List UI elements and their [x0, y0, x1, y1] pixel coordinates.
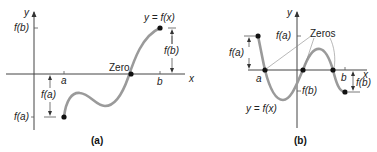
figure: y a b f(b) f(a) Zero y = f(x) f(b) f(a) [0, 0, 377, 152]
panel-b-point-fb [342, 89, 347, 94]
panel-b-fb-axis-label: f(b) [302, 85, 317, 96]
panel-b-tick-b-label: b [341, 72, 347, 83]
panel-a-fa-arrowhead-down-icon [48, 111, 52, 116]
panel-a-point-fa [61, 114, 66, 119]
panel-b-curve-label: y = f(x) [245, 103, 277, 114]
panel-b-zero-3 [330, 67, 335, 72]
panel-a-fb-arrowhead-up-icon [170, 29, 174, 34]
panel-a-y-arrow-icon [32, 11, 37, 17]
panel-a-fb-axis-label: f(b) [14, 22, 29, 33]
panel-b: y x x a b f(a) f(b) Zeros y = f(x) [188, 7, 371, 146]
panel-a-point-fb [157, 25, 162, 30]
panel-b-zeros-label: Zeros [310, 28, 336, 39]
panel-b-fa-axis-label: f(a) [276, 30, 291, 41]
panel-b-fa-arrowhead-down-icon [247, 64, 251, 69]
panel-a-curve-label: y = f(x) [143, 12, 175, 23]
panel-a-fa-dim-label: f(a) [41, 89, 56, 100]
panel-a-fa-arrowhead-up-icon [48, 75, 52, 80]
panel-a-fb-arrowhead-down-icon [170, 68, 174, 73]
panel-a-caption: (a) [91, 135, 103, 146]
panel-a-y-label: y [23, 7, 30, 18]
panel-b-fb-dim-label: f(b) [356, 77, 371, 88]
panel-b-tick-a-label: a [256, 73, 262, 84]
panel-b-y-label: y [286, 7, 293, 18]
panel-a-tick-b-label: b [157, 76, 163, 87]
panel-b-y-arrow-icon [295, 11, 300, 17]
panel-b-fa-dim-label: f(a) [229, 47, 244, 58]
panel-b-caption: (b) [294, 135, 307, 146]
panel-b-zero-2 [300, 67, 305, 72]
panel-a-fa-axis-label: f(a) [14, 111, 29, 122]
panel-a-fb-dim-label: f(b) [164, 45, 179, 56]
panel-a-tick-a-label: a [61, 75, 67, 86]
panel-b-fb-arrowhead-down-icon [351, 86, 355, 91]
panel-b-point-fa [255, 33, 260, 38]
panel-b-fa-arrowhead-up-icon [247, 37, 251, 42]
panel-b-fb-arrowhead-up-icon [351, 71, 355, 76]
panel-a-zero-label: Zero [109, 62, 130, 73]
panel-a-x-label: x [188, 73, 195, 84]
panel-a: y a b f(b) f(a) Zero y = f(x) f(b) f(a) [6, 7, 185, 146]
